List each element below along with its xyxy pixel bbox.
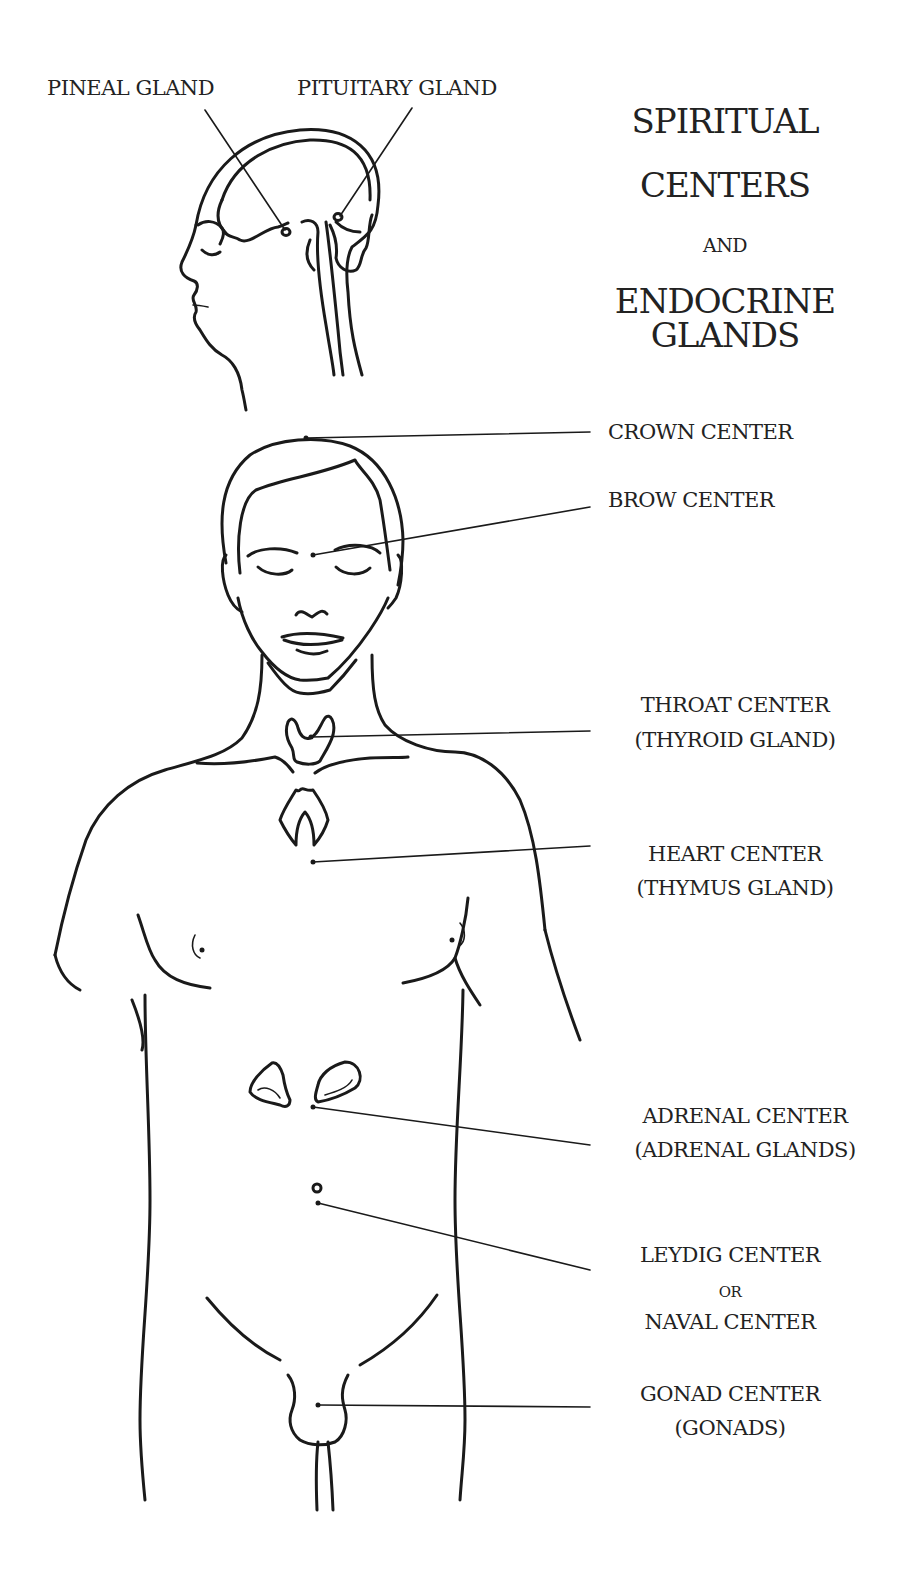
throat-leader (311, 731, 590, 737)
adrenal-leader (313, 1107, 590, 1145)
brow-leader (313, 507, 590, 555)
profile-head-drawing (181, 130, 379, 410)
front-head-drawing (222, 440, 403, 681)
title-line-2: CENTERS (575, 168, 875, 202)
diagram-canvas: PINEAL GLAND PITUITARY GLAND SPIRITUAL C… (0, 0, 923, 1591)
naval-center-label: NAVAL CENTER (595, 1310, 865, 1334)
crown-center-label: CROWN CENTER (608, 420, 793, 444)
gonad-leader (318, 1405, 590, 1407)
title-line-4: GLANDS (575, 318, 875, 352)
gonad-center-label: GONAD CENTER (595, 1382, 865, 1406)
crown-leader (306, 432, 590, 438)
leydig-center-label: LEYDIG CENTER (595, 1243, 865, 1267)
or-label: OR (595, 1283, 865, 1301)
torso-drawing (55, 655, 580, 1510)
title-conjunction: AND (575, 234, 875, 256)
throat-center-label: THROAT CENTER (600, 693, 870, 717)
pituitary-leader-line (340, 108, 412, 216)
title-line-1: SPIRITUAL (575, 104, 875, 138)
thyroid-gland-label: (THYROID GLAND) (600, 728, 870, 752)
adrenal-glands-label: (ADRENAL GLANDS) (600, 1138, 890, 1162)
thymus-gland-label: (THYMUS GLAND) (600, 876, 870, 900)
gonads-label: (GONADS) (595, 1416, 865, 1440)
pituitary-gland-label: PITUITARY GLAND (297, 76, 497, 100)
leader-lines (304, 432, 591, 1408)
title-line-3: ENDOCRINE (575, 284, 875, 318)
heart-leader (313, 846, 590, 862)
heart-center-label: HEART CENTER (600, 842, 870, 866)
brow-center-label: BROW CENTER (608, 488, 774, 512)
adrenal-center-label: ADRENAL CENTER (600, 1104, 890, 1128)
pineal-gland-label: PINEAL GLAND (47, 76, 214, 100)
